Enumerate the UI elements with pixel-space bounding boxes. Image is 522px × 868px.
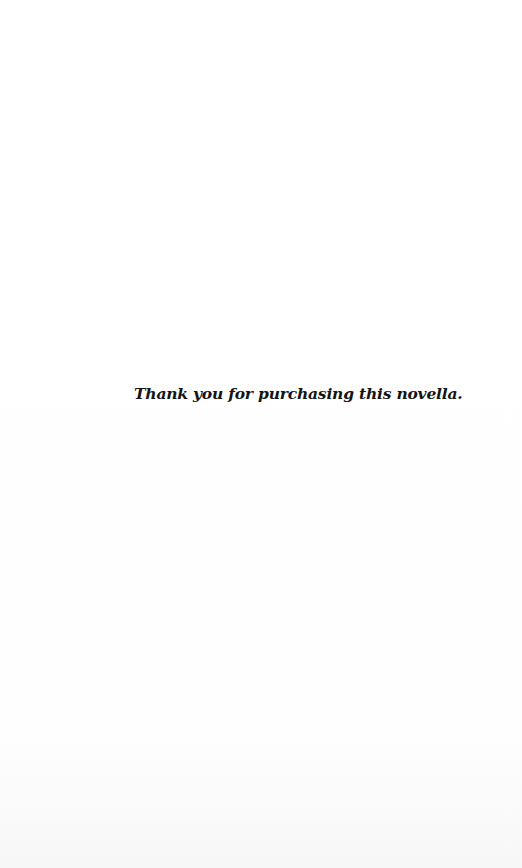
book-page: Thank you for purchasing this novella. [0, 0, 522, 868]
thank-you-message: Thank you for purchasing this novella. [134, 382, 464, 406]
